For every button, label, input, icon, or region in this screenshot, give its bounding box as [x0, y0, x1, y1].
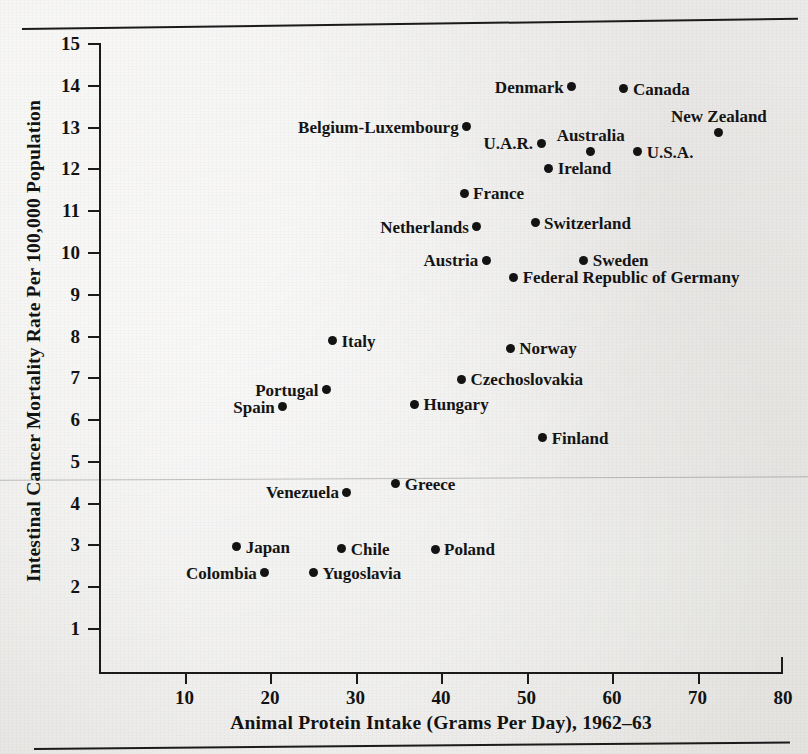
- data-point[interactable]: [457, 375, 466, 384]
- data-point-label: U.A.R.: [483, 135, 533, 152]
- x-tick-10: [185, 672, 187, 684]
- y-tick-label-11: 11: [48, 201, 80, 220]
- data-point[interactable]: [633, 147, 642, 156]
- data-point-label: Chile: [351, 540, 390, 557]
- y-tick-label-5: 5: [48, 452, 80, 471]
- y-tick-4: [88, 503, 99, 505]
- y-tick-14: [88, 85, 99, 87]
- data-point[interactable]: [260, 568, 269, 577]
- y-tick-label-7: 7: [48, 368, 80, 387]
- y-axis-title: Intestinal Cancer Mortality Rate Per 100…: [23, 41, 45, 641]
- x-tick-label-30: 30: [336, 688, 376, 707]
- x-tick-label-80: 80: [763, 688, 803, 707]
- data-point-label: Canada: [633, 80, 690, 97]
- data-point[interactable]: [462, 122, 471, 131]
- data-point[interactable]: [472, 222, 481, 231]
- y-tick-3: [88, 544, 99, 546]
- y-tick-5: [88, 461, 99, 463]
- data-point[interactable]: [714, 128, 723, 137]
- data-point[interactable]: [538, 433, 547, 442]
- y-tick-label-9: 9: [48, 285, 80, 304]
- data-point-label: Netherlands: [380, 218, 469, 235]
- data-point[interactable]: [586, 147, 595, 156]
- data-point-label: U.S.A.: [647, 143, 694, 160]
- x-tick-40: [441, 672, 443, 684]
- data-point-label: Australia: [557, 127, 625, 144]
- x-axis-title: Animal Protein Intake (Grams Per Day), 1…: [99, 712, 783, 734]
- data-point[interactable]: [391, 479, 400, 488]
- data-point[interactable]: [506, 344, 515, 353]
- data-point-label: Portugal: [255, 381, 318, 398]
- data-point[interactable]: [460, 189, 469, 198]
- data-point-label: Venezuela: [266, 484, 339, 501]
- data-point[interactable]: [342, 488, 351, 497]
- data-point[interactable]: [431, 545, 440, 554]
- data-point[interactable]: [328, 336, 337, 345]
- data-point-label: Spain: [233, 398, 275, 415]
- data-point-label: Federal Republic of Germany: [523, 269, 740, 286]
- data-point[interactable]: [410, 400, 419, 409]
- y-tick-label-3: 3: [48, 535, 80, 554]
- data-point-label: New Zealand: [671, 108, 767, 125]
- data-point-label: Belgium-Luxembourg: [298, 118, 459, 135]
- data-point-label: Japan: [246, 538, 290, 555]
- x-tick-50: [527, 672, 529, 684]
- y-tick-label-1: 1: [48, 619, 80, 638]
- y-tick-label-15: 15: [48, 34, 80, 53]
- y-axis-line: [99, 43, 101, 672]
- y-tick-9: [88, 294, 99, 296]
- y-tick-label-2: 2: [48, 577, 80, 596]
- data-point[interactable]: [531, 218, 540, 227]
- y-tick-13: [88, 127, 99, 129]
- data-point-label: Hungary: [423, 396, 488, 413]
- y-tick-1: [88, 628, 99, 630]
- data-point[interactable]: [309, 568, 318, 577]
- data-point[interactable]: [278, 402, 287, 411]
- data-point[interactable]: [579, 256, 588, 265]
- data-point-label: Poland: [444, 541, 495, 558]
- data-point-label: Switzerland: [544, 214, 631, 231]
- y-tick-label-14: 14: [48, 76, 80, 95]
- y-tick-label-8: 8: [48, 327, 80, 346]
- data-point-label: Denmark: [495, 78, 564, 95]
- y-tick-8: [88, 336, 99, 338]
- data-point-label: Yugoslavia: [323, 564, 402, 581]
- y-tick-11: [88, 210, 99, 212]
- data-point[interactable]: [567, 82, 576, 91]
- y-tick-10: [88, 252, 99, 254]
- data-point[interactable]: [322, 385, 331, 394]
- x-tick-label-60: 60: [592, 688, 632, 707]
- data-point-label: Finland: [552, 429, 609, 446]
- data-point[interactable]: [544, 164, 553, 173]
- x-tick-label-10: 10: [165, 688, 205, 707]
- data-point-label: Austria: [424, 252, 479, 269]
- data-point[interactable]: [619, 84, 628, 93]
- data-point-label: Colombia: [186, 564, 257, 581]
- y-tick-label-6: 6: [48, 410, 80, 429]
- x-axis-end-tick: [781, 657, 783, 672]
- x-tick-label-50: 50: [507, 688, 547, 707]
- y-tick-label-12: 12: [48, 159, 80, 178]
- x-tick-30: [356, 672, 358, 684]
- x-tick-label-20: 20: [250, 688, 290, 707]
- data-point-label: Greece: [405, 475, 456, 492]
- data-point-label: Ireland: [558, 160, 612, 177]
- x-tick-20: [270, 672, 272, 684]
- y-tick-15: [88, 43, 99, 45]
- data-point[interactable]: [482, 256, 491, 265]
- x-tick-70: [698, 672, 700, 684]
- data-point[interactable]: [509, 273, 518, 282]
- y-tick-12: [88, 168, 99, 170]
- data-point-label: Norway: [519, 340, 577, 357]
- data-point-label: France: [473, 185, 524, 202]
- y-tick-2: [88, 586, 99, 588]
- y-tick-6: [88, 419, 99, 421]
- x-tick-label-70: 70: [678, 688, 718, 707]
- data-point-label: Italy: [341, 332, 375, 349]
- data-point[interactable]: [232, 542, 241, 551]
- data-point-label: Czechoslovakia: [471, 371, 583, 388]
- y-tick-7: [88, 377, 99, 379]
- data-point-label: Sweden: [593, 252, 649, 269]
- data-point[interactable]: [337, 544, 346, 553]
- data-point[interactable]: [537, 139, 546, 148]
